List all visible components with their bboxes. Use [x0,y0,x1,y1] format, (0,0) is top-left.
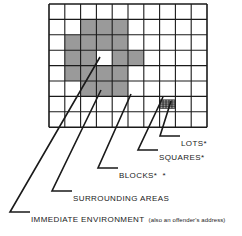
grid-cell-shaded [112,35,128,50]
label-squares-stars: * [201,153,206,162]
grid-cell-shaded [81,19,97,34]
label-immediate-environment-text: IMMEDIATE ENVIRONMENT [31,215,145,224]
grid-cell-shaded [112,81,128,96]
grid-cell-shaded [112,19,128,34]
grid-cell-shaded [65,50,81,65]
grid-cell-shaded [128,50,144,65]
grid-cell-shaded [65,35,81,50]
label-blocks-stars: * * [154,171,167,180]
grid-cell-shaded [81,35,97,50]
label-lots-stars: * [204,139,209,148]
label-surrounding-areas-text: SURROUNDING AREAS [73,194,169,203]
grid-cell-shaded [96,66,112,81]
label-lots: LOTS* [181,139,208,148]
grid-shaded-cells [65,19,144,96]
label-surrounding-areas: SURROUNDING AREAS [73,194,169,203]
grid-cell-shaded [96,35,112,50]
grid-cell-shaded [81,81,97,96]
label-squares: SQUARES* [159,153,206,162]
label-immediate-environment: IMMEDIATE ENVIRONMENT(also an offender's… [31,215,225,224]
fine-mesh-grid [160,100,175,108]
grid-cell-shaded [65,66,81,81]
label-blocks: BLOCKS* * [119,171,167,180]
grid-cell-shaded [112,50,128,65]
label-blocks-text: BLOCKS [119,171,154,180]
label-immediate-environment-note: (also an offender's address) [149,217,226,223]
grid-cell-shaded [96,19,112,34]
label-lots-text: LOTS [181,139,204,148]
grid-lines [49,4,207,127]
grid-cell-shaded [81,50,97,65]
diagram-canvas: LOTS* SQUARES* BLOCKS* * SURROUNDING ARE… [0,0,242,236]
grid-cell-shaded [112,66,128,81]
label-squares-text: SQUARES [159,153,201,162]
